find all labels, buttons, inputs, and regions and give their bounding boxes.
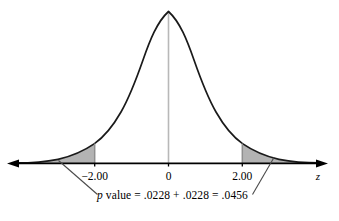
p-value-caption: p value = .0228 + .0228 = .0456: [97, 189, 248, 201]
axis-label-z: z: [315, 170, 321, 182]
tick-label-neg2: −2.00: [81, 170, 108, 182]
tick-label-pos2: 2.00: [232, 170, 252, 182]
p-value-expression: value = .0228 + .0228 = .0456: [103, 189, 248, 201]
distribution-plot: −2.00 0 2.00 z: [0, 0, 339, 221]
axis-arrow-right-icon: [316, 159, 328, 167]
axis-arrow-left-icon: [7, 159, 19, 167]
tick-label-zero: 0: [166, 170, 172, 182]
normal-distribution-figure: −2.00 0 2.00 z p value = .0228 + .0228 =…: [0, 0, 339, 221]
